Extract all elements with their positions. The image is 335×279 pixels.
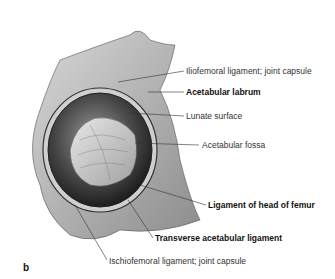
label-acetabular-labrum: Acetabular labrum — [186, 87, 261, 97]
label-iliofemoral-ligament: Iliofemoral ligament; joint capsule — [186, 66, 312, 76]
label-acetabular-fossa: Acetabular fossa — [202, 140, 265, 150]
label-transverse-acetabular-ligament: Transverse acetabular ligament — [155, 233, 282, 243]
panel-letter: b — [23, 262, 29, 273]
label-ligament-head-femur: Ligament of head of femur — [208, 200, 315, 210]
label-ischiofemoral-ligament: Ischiofemoral ligament; joint capsule — [109, 256, 246, 266]
label-lunate-surface: Lunate surface — [186, 111, 242, 121]
